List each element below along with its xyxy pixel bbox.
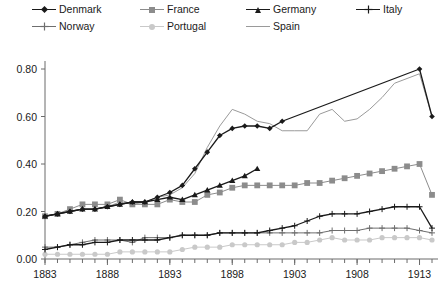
x-tick-label: 1913 — [408, 268, 432, 280]
series-line — [45, 164, 432, 216]
data-point — [242, 123, 248, 129]
data-point — [304, 180, 310, 186]
legend-label: Germany — [273, 4, 316, 15]
data-point — [254, 166, 260, 171]
data-point — [292, 182, 298, 188]
legend-item-portugal[interactable]: Portugal — [140, 21, 206, 32]
data-point — [130, 249, 135, 254]
data-point — [167, 249, 172, 254]
square-marker — [140, 5, 164, 15]
legend-item-denmark[interactable]: Denmark — [32, 4, 102, 15]
data-point — [354, 173, 360, 179]
data-point — [342, 237, 347, 242]
data-point — [192, 245, 197, 250]
data-point — [55, 252, 60, 257]
legend-label: Norway — [59, 21, 95, 32]
legend-item-spain[interactable]: Spain — [246, 21, 300, 32]
data-point — [92, 252, 97, 257]
data-point — [342, 175, 348, 181]
data-point — [354, 237, 359, 242]
data-point — [279, 182, 285, 188]
data-point — [267, 182, 273, 188]
legend-label: Portugal — [167, 21, 206, 32]
data-point — [280, 242, 285, 247]
data-point — [417, 66, 423, 72]
series-norway — [42, 225, 435, 250]
data-point — [217, 190, 223, 196]
x-tick-label: 1908 — [345, 268, 369, 280]
circle-marker — [140, 22, 164, 32]
chart-legend: DenmarkFranceGermanyItalyNorwayPortugalS… — [0, 2, 440, 38]
data-point — [317, 237, 322, 242]
data-point — [230, 242, 235, 247]
data-point — [429, 114, 435, 120]
data-point — [254, 182, 260, 188]
x-tick-label: 1883 — [33, 268, 57, 280]
triangle-marker — [246, 5, 270, 15]
y-tick-label: 0.60 — [17, 111, 38, 123]
data-point — [142, 249, 147, 254]
data-point — [379, 235, 384, 240]
data-point — [317, 180, 323, 186]
data-point — [117, 249, 122, 254]
data-point — [192, 199, 198, 205]
y-tick-label: 0.80 — [17, 63, 38, 75]
data-point — [305, 240, 310, 245]
legend-item-germany[interactable]: Germany — [246, 4, 316, 15]
data-point — [67, 252, 72, 257]
data-point — [105, 252, 110, 257]
y-tick-label: 0.00 — [17, 253, 38, 265]
data-point — [429, 192, 435, 198]
legend-item-italy[interactable]: Italy — [356, 4, 402, 15]
data-point — [155, 249, 160, 254]
data-point — [255, 242, 260, 247]
legend-label: Italy — [383, 4, 402, 15]
data-point — [429, 237, 434, 242]
chart-canvas: 0.000.200.400.600.8018831888189318981903… — [0, 40, 440, 287]
plus-marker — [32, 22, 56, 32]
y-tick-label: 0.40 — [17, 158, 38, 170]
legend-item-france[interactable]: France — [140, 4, 200, 15]
data-point — [267, 242, 272, 247]
diamond-marker — [32, 5, 56, 15]
legend-label: Spain — [273, 21, 300, 32]
series-denmark — [42, 66, 435, 219]
legend-label: France — [167, 4, 200, 15]
series-portugal — [42, 235, 434, 257]
data-point — [404, 235, 409, 240]
line-marker — [246, 22, 270, 32]
legend-item-norway[interactable]: Norway — [32, 21, 95, 32]
data-point — [379, 168, 385, 174]
data-point — [329, 178, 335, 184]
data-point — [180, 247, 185, 252]
data-point — [392, 166, 398, 172]
x-tick-label: 1903 — [283, 268, 307, 280]
data-point — [404, 163, 410, 169]
plot-area: 0.000.200.400.600.8018831888189318981903… — [0, 40, 440, 287]
plus-marker — [356, 5, 380, 15]
legend-label: Denmark — [59, 4, 102, 15]
x-tick-label: 1888 — [96, 268, 120, 280]
data-point — [279, 118, 285, 124]
series-line — [45, 74, 432, 217]
series-line — [45, 69, 432, 216]
data-point — [204, 192, 210, 198]
data-point — [417, 235, 422, 240]
data-point — [254, 123, 260, 129]
x-tick-label: 1898 — [221, 268, 245, 280]
data-point — [205, 245, 210, 250]
data-point — [392, 235, 397, 240]
data-point — [417, 161, 423, 167]
data-point — [242, 173, 248, 178]
data-point — [367, 237, 372, 242]
data-point — [367, 171, 373, 177]
data-point — [292, 240, 297, 245]
data-point — [330, 235, 335, 240]
data-point — [229, 126, 235, 132]
series-spain — [45, 74, 432, 217]
chart-figure: DenmarkFranceGermanyItalyNorwayPortugalS… — [0, 0, 440, 287]
data-point — [242, 182, 248, 188]
y-tick-label: 0.20 — [17, 206, 38, 218]
data-point — [242, 242, 247, 247]
series-line — [45, 169, 257, 217]
